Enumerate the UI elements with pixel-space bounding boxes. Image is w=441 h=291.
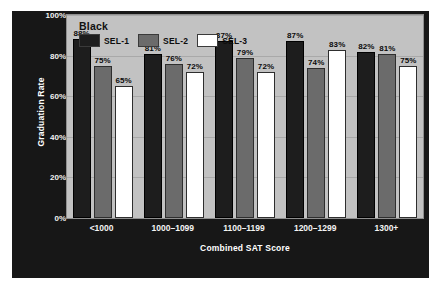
y-axis-tick-label: 60% [26,92,66,101]
bar-value-label: 87% [279,31,311,40]
bar[interactable] [94,66,112,218]
bar[interactable] [236,58,254,218]
bar[interactable] [307,68,325,218]
y-axis-title: Graduation Rate [36,52,46,172]
chart-legend: Black SEL-1SEL-2SEL-3 [79,20,256,47]
bar-value-label: 65% [108,76,140,85]
legend-label: SEL-2 [163,36,188,46]
legend-item-sel-2[interactable]: SEL-2 [138,34,188,47]
bar[interactable] [165,64,183,218]
bar-value-label: 81% [371,44,403,53]
bar-value-label: 83% [321,40,353,49]
bar-group: 82%81%75% [352,15,423,218]
x-axis-tick-label: 1300+ [343,223,429,233]
bar-group: 87%74%83% [281,15,352,218]
legend-item-sel-3[interactable]: SEL-3 [197,34,247,47]
legend-item-sel-1[interactable]: SEL-1 [79,34,129,47]
legend-swatch-icon [79,34,100,47]
bar-value-label: 75% [87,56,119,65]
bar-value-label: 79% [229,48,261,57]
bar[interactable] [215,41,233,218]
legend-label: SEL-3 [222,36,247,46]
bar[interactable] [357,52,375,218]
bar-value-label: 75% [392,56,424,65]
bar[interactable] [399,66,417,218]
bar[interactable] [144,54,162,218]
x-axis-title: Combined SAT Score [66,243,424,253]
bar[interactable] [328,50,346,218]
legend-items: SEL-1SEL-2SEL-3 [79,34,256,47]
y-axis-tick-label: 0% [26,214,66,223]
plot-area: 88%75%65%81%76%72%87%79%72%87%74%83%82%8… [66,14,424,219]
y-axis-tick-label: 100% [26,11,66,20]
legend-swatch-icon [138,34,159,47]
bar[interactable] [73,39,91,218]
y-axis-tick-label: 80% [26,51,66,60]
bar[interactable] [115,86,133,218]
y-axis-tick-label: 40% [26,132,66,141]
bar[interactable] [186,72,204,218]
bar[interactable] [286,41,304,218]
bar-value-label: 72% [179,62,211,71]
legend-swatch-icon [197,34,218,47]
bar-value-label: 72% [250,62,282,71]
chart-panel: Graduation Rate 0%20%40%60%80%100% 88%75… [12,11,429,278]
bar[interactable] [257,72,275,218]
legend-label: SEL-1 [104,36,129,46]
y-axis-tick-label: 20% [26,173,66,182]
chart-figure: Graduation Rate 0%20%40%60%80%100% 88%75… [0,0,441,291]
legend-title: Black [79,20,256,32]
bar[interactable] [378,54,396,218]
